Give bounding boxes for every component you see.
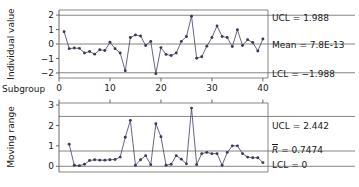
individuals-data-point <box>180 40 183 43</box>
x-tick-label: 40 <box>257 83 269 93</box>
moving-range-data-point <box>200 152 203 155</box>
bottom-chart-rbar-label: R = 0.7474 <box>272 145 323 156</box>
individuals-data-point <box>256 49 259 52</box>
individuals-data-point <box>190 15 193 18</box>
moving-range-data-point <box>114 158 117 161</box>
individuals-data-point <box>236 28 239 31</box>
subgroup-axis-title: Subgroup <box>2 84 45 94</box>
individuals-series-line <box>64 16 263 73</box>
individuals-y-axis-title: Individual value <box>6 8 16 80</box>
moving-range-data-point <box>103 159 106 162</box>
moving-range-data-point <box>88 159 91 162</box>
individuals-data-point <box>68 47 71 50</box>
individuals-data-point <box>139 35 142 38</box>
individuals-data-point <box>134 34 137 37</box>
moving-range-data-point <box>154 122 157 125</box>
individuals-data-point <box>185 35 188 38</box>
individuals-data-point <box>246 38 249 41</box>
individuals-y-tick-label: 1 <box>48 25 54 35</box>
moving-range-data-point <box>226 151 229 154</box>
individuals-data-point <box>83 52 86 55</box>
individuals-data-point <box>165 53 168 56</box>
individuals-y-tick-label: 2 <box>48 10 54 20</box>
moving-range-data-point <box>195 163 198 166</box>
moving-range-data-point <box>124 136 127 139</box>
imr-control-chart-canvas: 210−1−2010203040Individual value3210Movi… <box>0 0 359 187</box>
moving-range-data-point <box>241 152 244 155</box>
individuals-data-point <box>114 47 117 50</box>
individuals-y-tick-label: 0 <box>48 39 54 49</box>
x-tick-label: 30 <box>206 83 218 93</box>
x-tick-label: 20 <box>155 83 167 93</box>
moving-range-data-point <box>109 158 112 161</box>
moving-range-data-point <box>93 158 96 161</box>
moving-range-data-point <box>261 161 264 164</box>
moving-range-data-point <box>119 156 122 159</box>
moving-range-data-point <box>216 152 219 155</box>
individuals-y-tick-label: −2 <box>41 68 54 78</box>
moving-range-data-point <box>83 163 86 166</box>
moving-range-data-point <box>144 154 147 157</box>
individuals-data-point <box>129 36 132 39</box>
individuals-data-point <box>124 69 127 72</box>
individuals-data-point <box>200 55 203 58</box>
individuals-data-point <box>73 47 76 50</box>
moving-range-data-point <box>78 164 81 167</box>
moving-range-data-point <box>160 135 163 138</box>
moving-range-y-axis-title: Moving range <box>6 106 16 168</box>
moving-range-data-point <box>221 164 224 167</box>
moving-range-data-point <box>165 164 168 167</box>
individuals-data-point <box>195 57 198 60</box>
individuals-data-point <box>78 47 81 50</box>
moving-range-data-point <box>149 163 152 166</box>
moving-range-data-point <box>73 164 76 167</box>
moving-range-data-point <box>251 156 254 159</box>
individuals-data-point <box>205 45 208 48</box>
individuals-data-point <box>170 54 173 57</box>
individuals-data-point <box>175 52 178 55</box>
individuals-data-point <box>119 52 122 55</box>
moving-range-y-tick-label: 1 <box>48 141 54 151</box>
individuals-data-point <box>216 24 219 27</box>
moving-range-data-point <box>129 119 132 122</box>
moving-range-y-tick-label: 3 <box>48 100 54 110</box>
moving-range-data-point <box>134 164 137 167</box>
x-tick-label: 10 <box>104 83 116 93</box>
individuals-data-point <box>241 44 244 47</box>
moving-range-data-point <box>180 158 183 161</box>
moving-range-y-tick-label: 2 <box>48 121 54 131</box>
x-tick-label: 0 <box>56 83 62 93</box>
individuals-data-point <box>210 36 213 39</box>
individuals-data-point <box>88 50 91 53</box>
top-chart-mean-label: Mean = 7.8E-13 <box>272 40 344 51</box>
control-chart-figure: 210−1−2010203040Individual value3210Movi… <box>0 0 359 187</box>
moving-range-data-point <box>139 158 142 161</box>
individuals-data-point <box>63 30 66 33</box>
moving-range-data-point <box>256 156 259 159</box>
individuals-data-point <box>251 41 254 44</box>
individuals-data-point <box>226 36 229 39</box>
bottom-chart-lcl-label: LCL = 0 <box>272 160 307 171</box>
moving-range-data-point <box>231 144 234 147</box>
moving-range-data-point <box>170 163 173 166</box>
individuals-data-point <box>103 49 106 52</box>
individuals-data-point <box>221 35 224 38</box>
individuals-data-point <box>261 37 264 40</box>
top-chart-ucl-label: UCL = 1.988 <box>272 13 329 24</box>
individuals-data-point <box>154 72 157 75</box>
moving-range-data-point <box>236 144 239 147</box>
moving-range-data-point <box>190 107 193 110</box>
moving-range-data-point <box>210 152 213 155</box>
individuals-data-point <box>98 48 101 51</box>
moving-range-data-point <box>205 151 208 154</box>
moving-range-data-point <box>185 162 188 165</box>
moving-range-y-tick-label: 0 <box>48 161 54 171</box>
moving-range-data-point <box>98 159 101 162</box>
individuals-data-point <box>231 45 234 48</box>
individuals-data-point <box>93 53 96 56</box>
rbar-value: = 0.7474 <box>278 145 323 155</box>
rbar-symbol: R <box>272 145 278 156</box>
individuals-data-point <box>149 40 152 43</box>
moving-range-data-point <box>246 156 249 159</box>
bottom-chart-ucl-label: UCL = 2.442 <box>272 121 329 132</box>
